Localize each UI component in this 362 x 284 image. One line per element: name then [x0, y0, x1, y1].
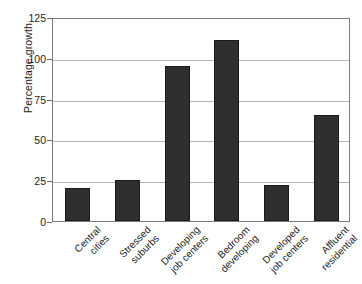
y-axis-ticks: 0255075100125: [52, 18, 350, 222]
y-tick-mark: [47, 181, 52, 182]
y-tick-label: 100: [6, 54, 46, 65]
bar-chart: Percentage growth 0255075100125 Centralc…: [0, 0, 362, 284]
y-tick-label: 125: [6, 13, 46, 24]
y-tick-mark: [47, 18, 52, 19]
x-axis-category-labels: CentralcitiesStressedsuburbsDevelopingjo…: [52, 224, 350, 284]
y-tick-label: 50: [6, 135, 46, 146]
y-tick-label: 75: [6, 94, 46, 105]
y-tick-mark: [47, 222, 52, 223]
y-tick-mark: [47, 59, 52, 60]
y-tick-label: 25: [6, 176, 46, 187]
y-tick-mark: [47, 100, 52, 101]
y-tick-mark: [47, 140, 52, 141]
y-tick-label: 0: [6, 217, 46, 228]
